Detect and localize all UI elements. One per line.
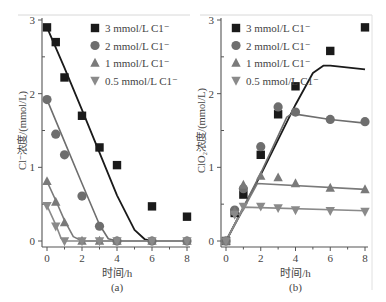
x-tick-label: 4 [114,252,120,264]
legend-label: 1 mmol/L C1⁻ [105,57,170,69]
triangle-up-marker [256,171,265,180]
y-tick-label: 0 [30,235,36,247]
y-tick-label: 3 [209,14,215,26]
x-axis-label: 时间/h [280,267,311,279]
circle-marker [274,102,283,111]
y-tick-label: 1 [30,161,36,173]
y-tick-label: 1 [209,161,215,173]
triangle-down-marker [326,207,335,216]
triangle-down-marker [231,77,240,86]
legend-label: 0.5 mmol/L C1⁻ [105,75,178,87]
circle-marker [291,107,300,116]
triangle-up-marker [291,178,300,187]
triangle-down-marker [90,77,99,86]
y-tick-label: 2 [209,88,215,100]
square-marker [183,212,191,220]
square-marker [232,24,240,32]
circle-marker [60,150,69,159]
circle-marker [77,191,86,200]
fit-line [47,100,187,241]
panel-b-chart: 012302468时间/h(b)ClO₂浓度/(mmol/L)3 mmol/L … [195,14,372,294]
x-tick-label: 6 [149,252,155,264]
triangle-down-marker [291,206,300,215]
square-marker [78,112,86,120]
x-axis-label: 时间/h [102,267,133,279]
square-marker [326,47,334,55]
square-marker [361,23,369,31]
y-tick-label: 3 [30,14,36,26]
triangle-down-marker [51,223,60,232]
square-marker [43,23,51,31]
legend-label: 1 mmol/L C1⁻ [246,57,311,69]
triangle-down-marker [360,208,369,217]
square-marker [52,38,60,46]
panel-caption: (b) [289,281,302,294]
y-tick-label: 2 [30,88,36,100]
square-marker [91,24,99,32]
circle-marker [360,117,369,126]
figure: 012302468时间/h(a)Cl⁻浓度/(mmol/L)3 mmol/L C… [0,0,386,302]
circle-marker [326,115,335,124]
triangle-up-marker [273,172,282,181]
panel-a-chart: 012302468时间/h(a)Cl⁻浓度/(mmol/L)3 mmol/L C… [16,14,192,294]
square-marker [95,143,103,151]
circle-marker [42,95,51,104]
y-axis-label: ClO₂浓度/(mmol/L) [195,88,208,173]
fit-line [226,114,365,241]
y-tick-label: 0 [209,235,215,247]
triangle-up-marker [42,176,51,185]
panel-caption: (a) [111,281,124,294]
legend-label: 3 mmol/L C1⁻ [105,22,170,34]
legend-label: 0.5 mmol/L C1⁻ [246,75,319,87]
square-marker [257,151,265,159]
x-tick-label: 2 [79,252,85,264]
legend-label: 2 mmol/L C1⁻ [246,40,311,52]
legend-label: 2 mmol/L C1⁻ [105,40,170,52]
fit-line [47,206,187,241]
circle-marker [95,222,104,231]
triangle-up-marker [231,58,240,67]
x-tick-label: 8 [184,252,190,264]
circle-marker [51,130,60,139]
square-marker [60,73,68,81]
x-tick-label: 2 [258,252,264,264]
x-tick-label: 4 [293,252,299,264]
circle-marker [256,142,265,151]
square-marker [113,161,121,169]
circle-marker [90,41,99,50]
triangle-up-marker [51,197,60,206]
legend-label: 3 mmol/L C1⁻ [246,22,311,34]
y-axis-label: Cl⁻浓度/(mmol/L) [16,90,29,170]
triangle-up-marker [60,217,69,226]
triangle-up-marker [90,58,99,67]
x-tick-label: 0 [44,252,50,264]
triangle-up-marker [239,180,248,189]
square-marker [148,202,156,210]
triangle-down-marker [42,202,51,211]
x-tick-label: 6 [328,252,334,264]
circle-marker [231,41,240,50]
fit-line [47,181,187,241]
x-tick-label: 8 [362,252,368,264]
x-tick-label: 0 [223,252,229,264]
